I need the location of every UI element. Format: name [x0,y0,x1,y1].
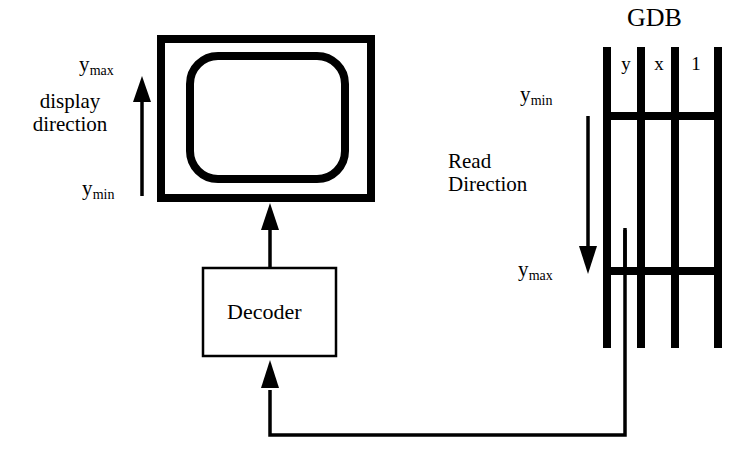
gdb-column-header-1: 1 [682,54,710,75]
display-screen [190,56,345,179]
decoder-label: Decoder [227,300,302,324]
display-direction-label: display direction [6,90,134,135]
gdb-column-header-x: x [645,54,673,75]
read-ymax-label: ymax [518,258,553,281]
gdb-table [603,47,722,348]
read-direction-arrow [579,116,597,274]
read-direction-line2: Direction [448,173,578,196]
display-group [161,39,371,198]
display-ymin-label: ymin [82,177,114,200]
read-direction-label: Read Direction [448,150,578,195]
display-direction-line1: display [6,90,134,113]
read-ymin-label: ymin [520,83,552,106]
figure-canvas: ymax ymin display direction ymin ymax Re… [0,0,748,461]
gdb-title: GDB [627,4,682,32]
display-ymax-label: ymax [79,53,114,76]
gdb-column-header-y: y [612,54,640,75]
display-direction-line2: direction [6,113,134,136]
display-direction-arrow [133,76,151,196]
decoder-to-display-arrow [261,203,279,268]
read-direction-line1: Read [448,150,578,173]
